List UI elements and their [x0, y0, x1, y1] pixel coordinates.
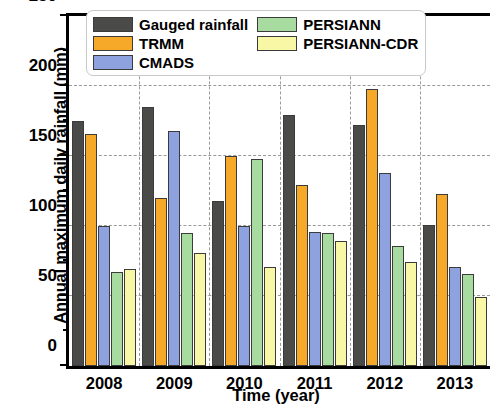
y-axis-tick-label: 200 [29, 56, 57, 76]
legend-item: PERSIANN [257, 15, 418, 33]
legend-column-right: PERSIANNPERSIANN-CDR [257, 15, 418, 71]
bar [462, 274, 474, 366]
bar [392, 246, 404, 366]
bar [449, 267, 461, 366]
y-axis-tick [60, 84, 69, 86]
legend-label: CMADS [139, 54, 194, 71]
bar [353, 125, 365, 366]
bar [251, 159, 263, 366]
bar [181, 233, 193, 366]
legend-swatch-icon [93, 36, 133, 51]
legend-swatch-icon [257, 17, 297, 32]
chart-legend: Gauged rainfallTRMMCMADS PERSIANNPERSIAN… [86, 10, 426, 76]
bar [309, 232, 321, 366]
legend-item: TRMM [93, 34, 248, 52]
bar-group-2013 [420, 16, 490, 366]
legend-swatch-icon [93, 17, 133, 32]
bar [85, 134, 97, 366]
legend-item: CMADS [93, 53, 248, 71]
y-axis-tick-label: 0 [48, 336, 57, 356]
y-axis-tick-label: 50 [38, 266, 57, 286]
bar [238, 226, 250, 366]
bar [475, 297, 487, 366]
bar [98, 226, 110, 366]
bar [405, 262, 417, 366]
legend-label: TRMM [139, 35, 184, 52]
bar [142, 107, 154, 366]
bar [264, 267, 276, 366]
bar [225, 156, 237, 366]
bar [335, 241, 347, 366]
bar [168, 131, 180, 366]
bar [366, 89, 378, 366]
bar [296, 185, 308, 366]
bar [283, 115, 295, 366]
bar [379, 173, 391, 366]
legend-label: PERSIANN-CDR [303, 35, 418, 52]
bar [124, 269, 136, 366]
y-axis-tick [60, 154, 69, 156]
legend-label: PERSIANN [303, 16, 381, 33]
x-axis-title: Time (year) [66, 386, 486, 405]
y-axis-tick-label: 250 [29, 0, 57, 6]
bar [322, 233, 334, 366]
bar [111, 272, 123, 366]
chart-figure: Annual maximum daily rainfall (mm) 05010… [0, 0, 495, 410]
legend-item: Gauged rainfall [93, 15, 248, 33]
legend-label: Gauged rainfall [139, 16, 248, 33]
y-axis-tick [60, 364, 69, 366]
legend-column-left: Gauged rainfallTRMMCMADS [93, 15, 248, 71]
bar [423, 225, 435, 366]
legend-swatch-icon [257, 36, 297, 51]
bar [436, 194, 448, 366]
legend-item: PERSIANN-CDR [257, 34, 418, 52]
bar [155, 198, 167, 366]
bar [194, 253, 206, 366]
y-axis-tick [60, 224, 69, 226]
bar [72, 121, 84, 366]
y-axis-tick-label: 100 [29, 196, 57, 216]
y-axis-tick [60, 294, 69, 296]
legend-swatch-icon [93, 55, 133, 70]
y-axis-tick [60, 14, 69, 16]
y-axis-tick-label: 150 [29, 126, 57, 146]
bar [212, 201, 224, 366]
